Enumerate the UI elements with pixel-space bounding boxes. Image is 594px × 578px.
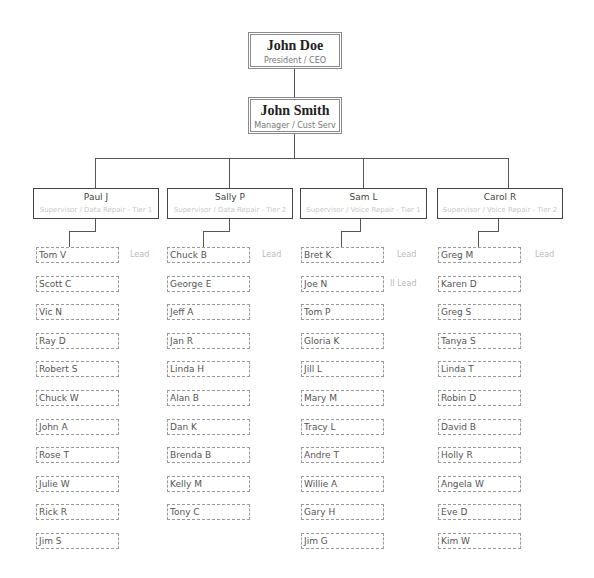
staff-node[interactable]: Eve D (438, 504, 521, 520)
connector-to-sup-3 (363, 158, 364, 188)
staff-node[interactable]: Rick R (36, 504, 119, 520)
role-tag: Lead (130, 247, 149, 263)
role-tag: Lead (397, 247, 416, 263)
connector-sup4-elbow-h (478, 231, 499, 232)
staff-node[interactable]: Dan K (167, 419, 250, 435)
manager-name: John Smith (251, 103, 339, 119)
staff-node[interactable]: Jim S (36, 533, 119, 549)
connector-sup2-elbow-v1 (229, 218, 230, 231)
staff-node[interactable]: Alan B (167, 390, 250, 406)
staff-node[interactable]: Willie A (301, 476, 384, 492)
staff-node[interactable]: Scott C (36, 276, 119, 292)
staff-node[interactable]: Jeff A (167, 304, 250, 320)
staff-node[interactable]: Brenda B (167, 447, 250, 463)
staff-node[interactable]: Greg S (438, 304, 521, 320)
staff-node[interactable]: Tracy L (301, 419, 384, 435)
staff-node[interactable]: Gary H (301, 504, 384, 520)
staff-node[interactable]: Robert S (36, 361, 119, 377)
connector-horizontal-bus (95, 158, 509, 159)
staff-node[interactable]: Jill L (301, 361, 384, 377)
manager-node[interactable]: John Smith Manager / Cust Serv (248, 97, 342, 134)
staff-node[interactable]: Mary M (301, 390, 384, 406)
supervisor-title: Supervisor / Data Repair - Tier 2 (168, 205, 292, 215)
staff-node[interactable]: Jan R (167, 333, 250, 349)
supervisor-node-2[interactable]: Sally P Supervisor / Data Repair - Tier … (167, 188, 293, 219)
staff-node[interactable]: Ray D (36, 333, 119, 349)
connector-sup1-elbow-h (69, 231, 96, 232)
staff-node[interactable]: Tom P (301, 304, 384, 320)
staff-node[interactable]: Kim W (438, 533, 521, 549)
ceo-title: President / CEO (251, 55, 339, 66)
staff-node[interactable]: Julie W (36, 476, 119, 492)
staff-node[interactable]: Angela W (438, 476, 521, 492)
staff-node[interactable]: Bret K (301, 247, 384, 263)
staff-node[interactable]: Robin D (438, 390, 521, 406)
supervisor-title: Supervisor / Voice Repair - Tier 1 (301, 205, 426, 215)
staff-node[interactable]: Chuck B (167, 247, 250, 263)
role-tag: II Lead (390, 276, 416, 292)
role-tag: Lead (535, 247, 554, 263)
supervisor-node-3[interactable]: Sam L Supervisor / Voice Repair - Tier 1 (300, 188, 427, 219)
supervisor-title: Supervisor / Voice Repair - Tier 2 (438, 205, 562, 215)
connector-sup2-elbow-h (203, 231, 230, 232)
staff-node[interactable]: Tanya S (438, 333, 521, 349)
supervisor-node-4[interactable]: Carol R Supervisor / Voice Repair - Tier… (437, 188, 563, 219)
supervisor-title: Supervisor / Data Repair - Tier 1 (34, 205, 158, 215)
role-tag: Lead (262, 247, 281, 263)
supervisor-node-1[interactable]: Paul J Supervisor / Data Repair - Tier 1 (33, 188, 159, 219)
staff-node[interactable]: Linda H (167, 361, 250, 377)
manager-title: Manager / Cust Serv (251, 120, 339, 131)
staff-node[interactable]: John A (36, 419, 119, 435)
staff-node[interactable]: George E (167, 276, 250, 292)
connector-sup4-elbow-v2 (478, 231, 479, 247)
connector-sup2-elbow-v2 (203, 231, 204, 247)
supervisor-name: Sally P (168, 191, 292, 203)
connector-to-sup-1 (95, 158, 96, 188)
staff-node[interactable]: Kelly M (167, 476, 250, 492)
staff-node[interactable]: Jim G (301, 533, 384, 549)
connector-sup3-elbow-v2 (341, 231, 342, 247)
connector-to-sup-2 (229, 158, 230, 188)
supervisor-name: Paul J (34, 191, 158, 203)
staff-node[interactable]: Tom V (36, 247, 119, 263)
staff-node[interactable]: Andre T (301, 447, 384, 463)
staff-node[interactable]: Karen D (438, 276, 521, 292)
supervisor-name: Sam L (301, 191, 426, 203)
staff-node[interactable]: Linda T (438, 361, 521, 377)
connector-ceo-to-manager (294, 68, 295, 97)
connector-sup1-elbow-v2 (69, 231, 70, 247)
staff-node[interactable]: Holly R (438, 447, 521, 463)
ceo-name: John Doe (251, 38, 339, 54)
staff-node[interactable]: Greg M (438, 247, 521, 263)
connector-manager-down (294, 133, 295, 158)
staff-node[interactable]: Tony C (167, 504, 250, 520)
staff-node[interactable]: Joe N (301, 276, 384, 292)
staff-node[interactable]: Vic N (36, 304, 119, 320)
connector-sup4-elbow-v1 (498, 218, 499, 231)
staff-node[interactable]: Gloria K (301, 333, 384, 349)
ceo-node[interactable]: John Doe President / CEO (248, 32, 342, 69)
connector-sup3-elbow-v1 (360, 218, 361, 231)
connector-sup1-elbow-v1 (95, 218, 96, 231)
supervisor-name: Carol R (438, 191, 562, 203)
staff-node[interactable]: Rose T (36, 447, 119, 463)
connector-sup3-elbow-h (341, 231, 361, 232)
staff-node[interactable]: David B (438, 419, 521, 435)
connector-to-sup-4 (508, 158, 509, 188)
staff-node[interactable]: Chuck W (36, 390, 119, 406)
